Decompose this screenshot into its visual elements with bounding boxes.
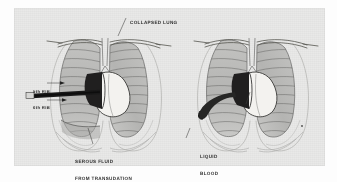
sixth-rib-label: 6th RIB — [33, 105, 50, 110]
liquid-blood-callout: LIQUID BLOOD IN RIGHT AURICLE — [200, 143, 223, 182]
collapsed-lung-title-label: COLLAPSED LUNG — [130, 20, 178, 26]
serous-fluid-line-1: SEROUS FLUID — [75, 159, 132, 165]
right-figure-clavicles — [194, 40, 318, 48]
right-thorax-figure — [186, 38, 318, 152]
liquid-blood-line-1: LIQUID — [200, 154, 223, 160]
left-thorax-figure — [26, 18, 171, 152]
anatomy-drawing — [14, 8, 325, 166]
liquid-blood-line-2: BLOOD — [200, 171, 223, 177]
serous-fluid-callout: SEROUS FLUID FROM TRANSUDATION IN PLEURA… — [75, 148, 132, 182]
fifth-rib-label: 5th RIB — [33, 89, 50, 94]
figure-root: COLLAPSED LUNG 5th RIB 6th RIB SEROUS FL… — [0, 0, 337, 182]
illustration-plate: COLLAPSED LUNG 5th RIB 6th RIB SEROUS FL… — [14, 8, 325, 166]
serous-fluid-line-2: FROM TRANSUDATION — [75, 176, 132, 182]
left-figure-clavicles — [47, 40, 171, 48]
